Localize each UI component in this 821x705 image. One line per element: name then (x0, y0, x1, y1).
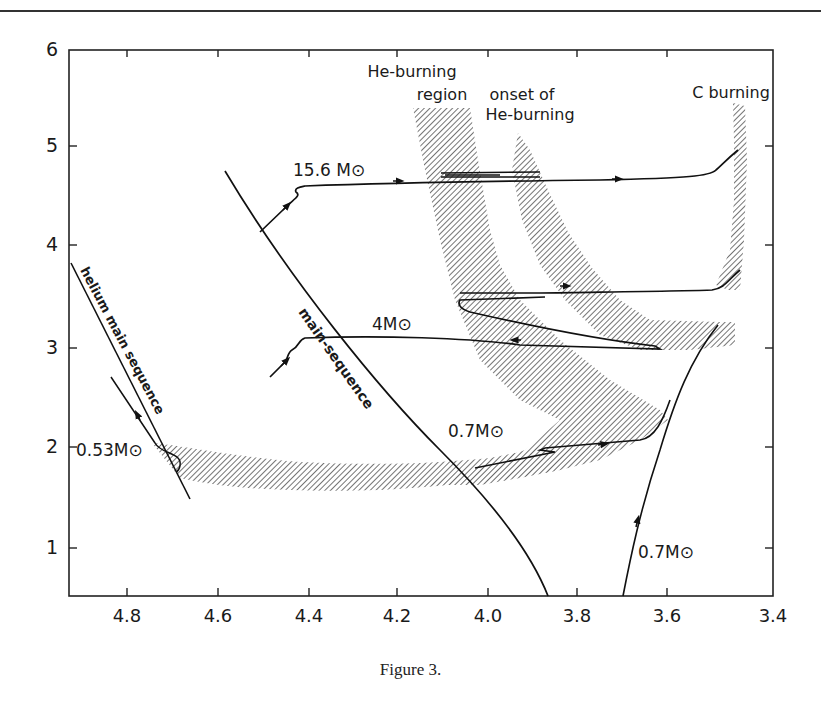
label-15-6-msun: 15.6 M⊙ (293, 160, 365, 180)
arrow-icon (283, 205, 288, 210)
hr-diagram: 4.8 4.6 4.4 4.2 4.0 3.8 3.6 3.4 1 2 3 4 … (0, 0, 821, 705)
x-tick-label: 4.8 (113, 605, 142, 626)
y-tick-label: 2 (46, 435, 58, 457)
x-tick-label: 4.2 (383, 605, 412, 626)
arrow-icon (598, 444, 605, 445)
label-0-7-msun-hb: 0.7M⊙ (448, 421, 504, 441)
figure-caption: Figure 3. (0, 660, 821, 680)
c-burning-band (716, 103, 747, 290)
x-tick-label: 4.6 (204, 605, 233, 626)
onset-of-he-burning-band (512, 133, 735, 350)
label-region: region (417, 85, 468, 104)
y-tick-labels: 1 2 3 4 5 6 (46, 38, 58, 558)
main-sequence-line (225, 171, 548, 596)
x-tick-label: 3.8 (563, 605, 592, 626)
y-tick-label: 4 (46, 233, 58, 255)
y-tick-label: 5 (46, 134, 58, 156)
y-tick-label: 6 (46, 38, 58, 60)
y-tick-label: 1 (46, 536, 58, 558)
x-tick-label: 3.4 (759, 605, 788, 626)
label-main-sequence: main-sequence (296, 305, 378, 412)
label-4-msun: 4M⊙ (372, 314, 412, 334)
label-he-burning-onset: He-burning (485, 105, 574, 124)
label-he-burning: He-burning (367, 62, 456, 81)
arrow-icon (281, 360, 287, 366)
x-tick-labels: 4.8 4.6 4.4 4.2 4.0 3.8 3.6 3.4 (113, 605, 788, 626)
x-tick-label: 4.4 (295, 605, 324, 626)
y-tick-label: 3 (46, 336, 58, 358)
helium-main-sequence-line (71, 263, 190, 499)
label-onset-of: onset of (490, 85, 555, 104)
label-c-burning: C burning (692, 83, 770, 102)
label-0-53-msun: 0.53M⊙ (76, 440, 143, 460)
label-0-7-msun-rgb: 0.7M⊙ (638, 542, 694, 562)
x-tick-label: 4.0 (474, 605, 503, 626)
x-tick-label: 3.6 (653, 605, 682, 626)
